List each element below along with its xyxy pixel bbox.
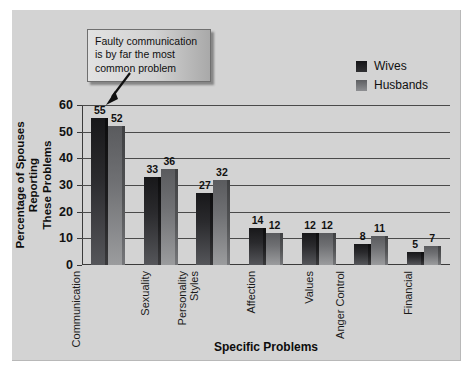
x-axis-category-label: Communication xyxy=(70,271,82,347)
bar-face xyxy=(196,193,210,265)
bar-wives-anger-control[interactable]: 8 xyxy=(354,244,371,265)
bar-side-shade xyxy=(333,233,336,265)
y-axis-tick-label: 40 xyxy=(59,151,73,165)
callout-line3: common problem xyxy=(95,62,176,74)
bar-face xyxy=(302,233,316,265)
bar-face xyxy=(144,177,158,265)
y-axis-tick-label: 10 xyxy=(59,231,73,245)
bar-face xyxy=(249,228,263,265)
bar-husbands-communication[interactable]: 52 xyxy=(108,126,125,265)
bar-group: 811Anger Control xyxy=(345,105,398,265)
legend-label: Husbands xyxy=(374,78,428,92)
bar-value-label: 32 xyxy=(216,166,228,178)
bar-value-label: 36 xyxy=(164,155,176,167)
bar-value-label: 5 xyxy=(412,238,418,250)
bar-side-shade xyxy=(385,236,388,265)
bar-face xyxy=(266,233,280,265)
bar-husbands-values[interactable]: 12 xyxy=(319,233,336,265)
annotation-callout: Faulty communication is by far the most … xyxy=(87,29,211,82)
chart-legend: WivesHusbands xyxy=(356,59,428,97)
y-axis-tick-label: 60 xyxy=(59,98,73,112)
bar-side-shade xyxy=(438,246,441,265)
y-axis-title-line1: Percentage of Spouses Reporting xyxy=(14,121,39,248)
bar-wives-affection[interactable]: 14 xyxy=(249,228,266,265)
bar-husbands-sexuality[interactable]: 36 xyxy=(161,169,178,265)
bar-value-label: 52 xyxy=(111,112,123,124)
y-axis-tick xyxy=(77,265,82,266)
plot-area: 0102030405060 5552Communication3336Sexua… xyxy=(82,105,450,265)
legend-item-husbands[interactable]: Husbands xyxy=(356,78,428,92)
bar-side-shade xyxy=(122,126,125,265)
bar-group: 1212Values xyxy=(292,105,345,265)
bar-face xyxy=(91,118,105,265)
bar-wives-communication[interactable]: 55 xyxy=(91,118,108,265)
y-axis-tick-label: 20 xyxy=(59,205,73,219)
bar-face xyxy=(161,169,175,265)
bar-value-label: 7 xyxy=(429,232,435,244)
callout-line2: is by far the most xyxy=(95,48,175,60)
bar-husbands-financial[interactable]: 7 xyxy=(424,246,441,265)
bar-value-label: 27 xyxy=(199,179,211,191)
bar-wives-financial[interactable]: 5 xyxy=(407,252,424,265)
bar-value-label: 14 xyxy=(252,214,264,226)
x-axis-category-label: Values xyxy=(302,271,314,304)
bar-face xyxy=(354,244,368,265)
bar-wives-values[interactable]: 12 xyxy=(302,233,319,265)
x-axis-category-label: Sexuality xyxy=(139,271,151,316)
legend-item-wives[interactable]: Wives xyxy=(356,59,428,73)
bar-face xyxy=(371,236,385,265)
bar-value-label: 12 xyxy=(269,219,281,231)
bar-group: 57Financial xyxy=(397,105,450,265)
bar-value-label: 11 xyxy=(374,222,385,234)
bar-value-label: 8 xyxy=(360,230,366,242)
y-axis-title-line2: These Problems xyxy=(41,141,53,230)
bar-group: 1412Affection xyxy=(240,105,293,265)
bar-face xyxy=(424,246,438,265)
bar-side-shade xyxy=(280,233,283,265)
bar-side-shade xyxy=(227,180,230,265)
y-axis-tick-label: 0 xyxy=(66,258,73,272)
bar-value-label: 55 xyxy=(94,104,106,116)
bar-face xyxy=(108,126,122,265)
x-axis-title: Specific Problems xyxy=(82,340,450,354)
legend-label: Wives xyxy=(374,59,407,73)
bar-group: 5552Communication xyxy=(82,105,135,265)
bar-husbands-affection[interactable]: 12 xyxy=(266,233,283,265)
y-axis-tick-label: 30 xyxy=(59,178,73,192)
bar-value-label: 12 xyxy=(304,219,316,231)
bar-wives-sexuality[interactable]: 33 xyxy=(144,177,161,265)
legend-swatch-icon xyxy=(356,80,367,91)
bar-face xyxy=(319,233,333,265)
bar-side-shade xyxy=(175,169,178,265)
legend-swatch-icon xyxy=(356,61,367,72)
y-axis-tick-label: 50 xyxy=(59,125,73,139)
bar-husbands-anger-control[interactable]: 11 xyxy=(371,236,388,265)
bar-wives-personality-styles[interactable]: 27 xyxy=(196,193,213,265)
bar-face xyxy=(407,252,421,265)
x-axis-category-label: Financial xyxy=(402,271,414,315)
bar-value-label: 33 xyxy=(147,163,159,175)
y-axis-title: Percentage of Spouses Reporting These Pr… xyxy=(18,105,50,265)
bar-group: 2732Personality Styles xyxy=(187,105,240,265)
bar-value-label: 12 xyxy=(321,219,333,231)
bar-group: 3336Sexuality xyxy=(135,105,188,265)
bar-face xyxy=(213,180,227,265)
x-axis-category-label: Affection xyxy=(245,271,257,314)
x-axis-category-label: Anger Control xyxy=(335,271,347,343)
callout-line1: Faulty communication xyxy=(95,35,197,47)
chart-figure: Percentage of Spouses Reporting These Pr… xyxy=(0,0,473,371)
bar-husbands-personality-styles[interactable]: 32 xyxy=(213,180,230,265)
x-axis-category-label: Personality Styles xyxy=(177,271,200,343)
